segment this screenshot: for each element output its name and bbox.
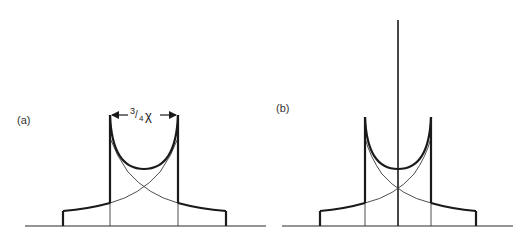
right-step-curve-b bbox=[431, 203, 476, 211]
left-step-curve-a bbox=[63, 203, 110, 211]
dimension-denominator: 4 bbox=[139, 114, 144, 123]
rising-thin-curve-a bbox=[110, 138, 178, 203]
chi-symbol: χ bbox=[145, 108, 152, 123]
panel-b: (b) bbox=[276, 20, 513, 226]
panel-label-b: (b) bbox=[276, 102, 289, 114]
dimension-slash: / bbox=[135, 109, 138, 120]
falling-thin-curve-a bbox=[110, 138, 178, 203]
panel-a: 3 / 4 χ (a) bbox=[17, 106, 266, 226]
panel-label-a: (a) bbox=[17, 114, 30, 126]
right-step-curve-a bbox=[178, 203, 226, 211]
left-step-curve-b bbox=[320, 203, 365, 211]
envelope-u-curve-a bbox=[110, 115, 178, 169]
diagram-canvas: 3 / 4 χ (a) (b) bbox=[0, 0, 532, 238]
